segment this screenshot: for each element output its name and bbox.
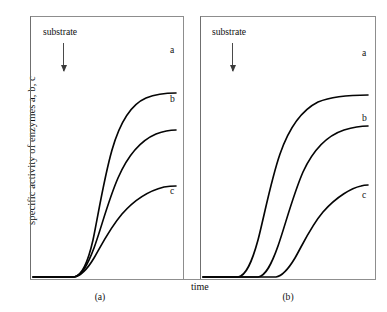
- panel-a-curve-b: [33, 130, 176, 277]
- panel-a-curve-label-b: b: [170, 93, 175, 104]
- panel-b-curve-label-b: b: [362, 112, 367, 123]
- panel-a-curve-label-c: c: [170, 185, 174, 196]
- panel-a-curve-a: [33, 93, 176, 277]
- x-axis-label: time: [191, 281, 209, 292]
- panel-b-curve-b: [203, 126, 368, 277]
- panel-a-curve-label-a: a: [170, 44, 174, 55]
- panel-a-caption: (a): [80, 291, 120, 302]
- figure-container: specific activity of enzymes a, b, c sub…: [0, 0, 387, 312]
- panel-b-curve-label-a: a: [362, 47, 366, 58]
- panel-b-curve-c: [203, 185, 368, 277]
- curves-layer: [0, 0, 387, 312]
- panel-b-curve-label-c: c: [362, 189, 366, 200]
- panel-b-curve-a: [203, 95, 368, 277]
- panel-a-curve-c: [33, 186, 176, 277]
- panel-b-caption: (b): [268, 291, 308, 302]
